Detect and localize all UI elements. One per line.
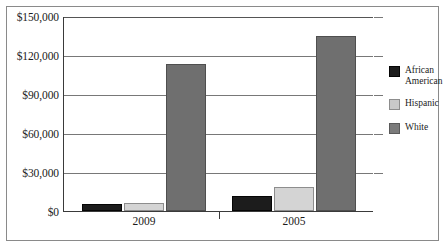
legend-label-african-american: African American [405, 65, 442, 86]
x-axis-label-2009: 2009 [133, 215, 156, 227]
x-axis-group-separator-tick [219, 212, 220, 219]
tick-stub-90000 [374, 95, 383, 96]
tick-stub-120000 [374, 56, 383, 57]
bar-2005-hispanic [274, 187, 314, 211]
bar-2005-white [316, 36, 356, 211]
legend-swatch-african-american-icon [389, 66, 400, 77]
gridline-150000 [64, 17, 373, 18]
bar-2009-white [166, 64, 206, 211]
y-axis-label-90000: $90,000 [22, 89, 59, 101]
y-axis-label-120000: $120,000 [17, 50, 59, 62]
y-axis-label-60000: $60,000 [22, 128, 59, 140]
bar-2009-hispanic [124, 203, 164, 211]
chart-legend: African American Hispanic White [389, 65, 446, 146]
legend-item-african-american: African American [389, 65, 446, 86]
tick-stub-30000 [374, 173, 383, 174]
legend-item-white: White [389, 122, 446, 134]
bar-2009-african-american [82, 204, 122, 211]
tick-stub-60000 [374, 134, 383, 135]
y-axis-label-150000: $150,000 [17, 11, 59, 23]
legend-swatch-hispanic-icon [389, 99, 400, 110]
x-axis-label-2005: 2005 [283, 215, 306, 227]
plot-area: $150,000 $120,000 $90,000 $60,000 $30,00… [63, 17, 373, 212]
legend-label-white: White [405, 122, 428, 133]
tick-stub-150000 [374, 17, 383, 18]
legend-item-hispanic: Hispanic [389, 98, 446, 110]
legend-swatch-white-icon [389, 123, 400, 134]
y-axis-label-0: $0 [48, 206, 59, 218]
chart-frame: $150,000 $120,000 $90,000 $60,000 $30,00… [6, 6, 439, 241]
y-axis-label-30000: $30,000 [22, 167, 59, 179]
legend-label-hispanic: Hispanic [405, 98, 439, 109]
bar-2005-african-american [232, 196, 272, 211]
